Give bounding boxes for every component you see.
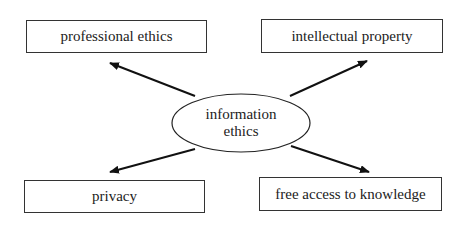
node-label: free access to knowledge — [275, 186, 425, 203]
center-label-line2: ethics — [224, 123, 259, 140]
node-label: intellectual property — [291, 28, 412, 45]
node-label: privacy — [92, 188, 137, 205]
arrow-to-privacy — [110, 149, 195, 172]
node-intellectual-property: intellectual property — [261, 19, 443, 53]
node-professional-ethics: professional ethics — [26, 20, 207, 53]
arrow-to-professional-ethics — [110, 63, 195, 96]
node-privacy: privacy — [24, 180, 205, 213]
node-free-access: free access to knowledge — [259, 177, 442, 211]
arrow-to-intellectual-property — [290, 61, 367, 96]
center-label-line1: information — [206, 106, 277, 123]
center-node: information ethics — [172, 94, 310, 152]
node-label: professional ethics — [60, 28, 172, 45]
